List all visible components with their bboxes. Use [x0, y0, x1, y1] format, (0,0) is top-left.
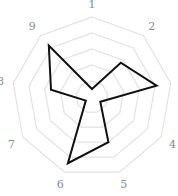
axis-label-1: 1	[89, 0, 96, 11]
axis-label-4: 4	[169, 138, 176, 151]
radar-chart: 123456789	[0, 0, 178, 196]
radar-grid	[13, 17, 171, 172]
axis-labels: 123456789	[0, 0, 178, 191]
data-series-polygon	[49, 46, 157, 164]
grid-ring-5	[13, 17, 171, 172]
axis-label-2: 2	[148, 20, 155, 33]
grid-ring-4	[29, 33, 155, 157]
axis-label-8: 8	[0, 75, 4, 88]
axis-label-6: 6	[57, 178, 64, 191]
axis-label-9: 9	[29, 20, 36, 33]
axis-label-7: 7	[8, 138, 15, 151]
grid-ring-1	[76, 81, 108, 112]
axis-label-5: 5	[120, 178, 127, 191]
